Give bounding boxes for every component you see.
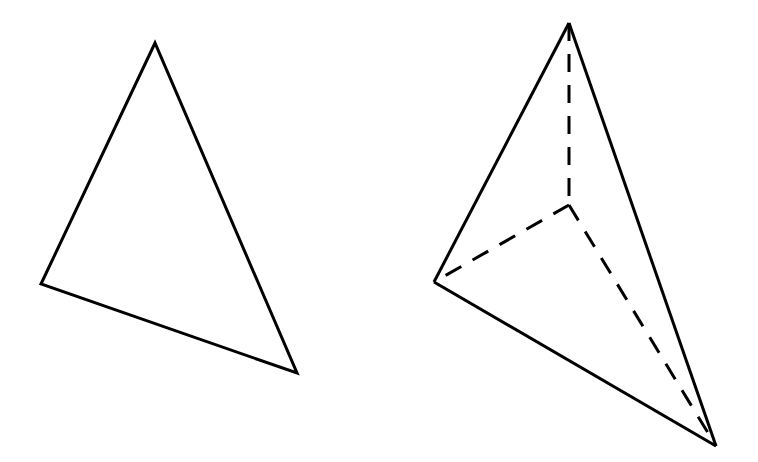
hidden-edge-2 <box>569 205 716 446</box>
visible-edge-1 <box>434 282 716 446</box>
triangle-figure <box>41 43 297 373</box>
tetrahedron-hidden-edges <box>434 23 716 446</box>
triangle-outline <box>41 43 297 373</box>
geometry-diagram <box>0 0 758 462</box>
visible-edge-2 <box>569 23 716 446</box>
tetrahedron-visible-edges <box>434 23 716 446</box>
tetrahedron-figure <box>434 23 716 446</box>
